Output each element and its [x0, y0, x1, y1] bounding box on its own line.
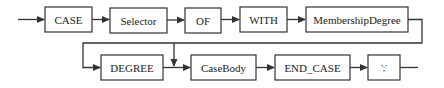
node-degree-label: DEGREE — [110, 62, 154, 74]
node-membershipdegree-label: MembershipDegree — [313, 14, 400, 26]
node-selector-label: Selector — [120, 15, 156, 27]
node-with-label: WITH — [249, 14, 278, 26]
node-semicolon-label: ';' — [381, 63, 387, 73]
node-case-label: CASE — [54, 14, 82, 26]
node-endcase-label: END_CASE — [284, 62, 341, 74]
node-of-label: OF — [196, 15, 210, 27]
node-casebody-label: CaseBody — [201, 62, 247, 74]
syntax-diagram: CASE Selector OF WITH MembershipDegree D… — [0, 0, 444, 88]
